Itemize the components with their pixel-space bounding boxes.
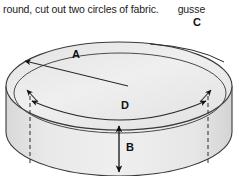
dimension-label-d: D [121,99,129,111]
top-outer-rim [6,42,232,130]
cylinder-pouf-figure: C A D [0,14,239,176]
diagram-page: round, cut out two circles of fabric. gu… [0,0,239,176]
dimension-label-a: A [72,48,80,60]
dimension-label-b: B [126,141,134,153]
dimension-label-c: C [193,16,201,28]
